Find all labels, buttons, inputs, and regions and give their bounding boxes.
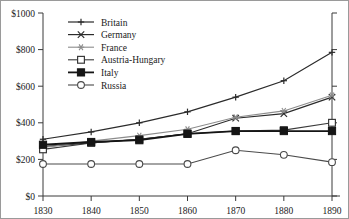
legend-marker-open-square-icon bbox=[78, 56, 85, 63]
x-tick-label: 1840 bbox=[82, 206, 101, 216]
y-tick-label: $800 bbox=[16, 45, 35, 55]
x-tick-label: 1870 bbox=[226, 206, 245, 216]
legend-label: France bbox=[101, 43, 127, 53]
series-line bbox=[43, 97, 332, 146]
legend-item-italy[interactable]: Italy bbox=[68, 68, 119, 78]
chart-container: $0$200$400$600$800$100018301840185018601… bbox=[0, 0, 349, 219]
data-point bbox=[184, 130, 191, 137]
legend-marker-filled-square-icon bbox=[77, 69, 84, 76]
legend-marker-open-circle-icon bbox=[78, 82, 85, 89]
legend-marker-plus-icon bbox=[78, 19, 84, 25]
legend-label: Britain bbox=[101, 18, 128, 28]
data-point bbox=[136, 137, 143, 144]
x-tick-label: 1880 bbox=[274, 206, 293, 216]
series-line bbox=[43, 52, 332, 139]
data-point bbox=[232, 147, 239, 154]
data-point bbox=[329, 49, 335, 55]
x-tick-label: 1850 bbox=[130, 206, 149, 216]
y-tick-label: $600 bbox=[16, 82, 35, 92]
data-point bbox=[88, 161, 95, 168]
chart-legend: BritainGermanyFranceAustria-HungaryItaly… bbox=[68, 18, 166, 91]
series-line bbox=[43, 95, 332, 147]
data-point bbox=[40, 161, 47, 168]
y-tick-label: $200 bbox=[16, 155, 35, 165]
series-russia bbox=[40, 147, 336, 168]
legend-item-germany[interactable]: Germany bbox=[68, 30, 137, 40]
legend-label: Russia bbox=[101, 81, 127, 91]
data-point bbox=[328, 127, 335, 134]
data-point bbox=[136, 120, 142, 126]
data-point bbox=[184, 161, 191, 168]
data-point bbox=[329, 159, 336, 166]
x-tick-label: 1830 bbox=[34, 206, 53, 216]
legend-label: Germany bbox=[101, 30, 137, 40]
x-tick-label: 1890 bbox=[323, 206, 342, 216]
data-point bbox=[280, 127, 287, 134]
series-italy bbox=[39, 127, 335, 148]
data-point bbox=[136, 161, 143, 168]
x-tick-label: 1860 bbox=[178, 206, 197, 216]
data-point bbox=[281, 78, 287, 84]
data-point bbox=[184, 109, 190, 115]
legend-marker-asterisk-icon bbox=[78, 44, 84, 50]
legend-label: Italy bbox=[101, 68, 119, 78]
legend-item-russia[interactable]: Russia bbox=[68, 81, 127, 91]
legend-item-austria-hungary[interactable]: Austria-Hungary bbox=[68, 55, 166, 65]
data-point bbox=[88, 129, 94, 135]
legend-label: Austria-Hungary bbox=[101, 55, 166, 65]
y-tick-label: $0 bbox=[26, 192, 36, 202]
data-point bbox=[232, 127, 239, 134]
legend-item-france[interactable]: France bbox=[68, 43, 127, 53]
data-point bbox=[232, 94, 238, 100]
data-point bbox=[88, 138, 95, 145]
data-point bbox=[329, 119, 336, 126]
y-tick-label: $400 bbox=[16, 118, 35, 128]
series-germany bbox=[40, 94, 335, 150]
legend-item-britain[interactable]: Britain bbox=[68, 18, 128, 28]
line-chart: $0$200$400$600$800$100018301840185018601… bbox=[0, 0, 349, 219]
y-tick-label: $1000 bbox=[11, 9, 35, 19]
data-point bbox=[280, 151, 287, 158]
data-point bbox=[39, 141, 46, 148]
